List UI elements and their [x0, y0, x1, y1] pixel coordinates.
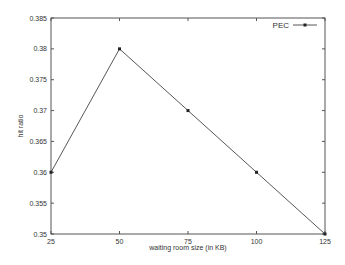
plot-border	[51, 18, 325, 234]
y-tick-label: 0.385	[29, 15, 47, 22]
data-point-marker	[187, 109, 190, 112]
legend: PEC	[273, 21, 317, 30]
y-tick-label: 0.355	[29, 200, 47, 207]
y-tick-label: 0.36	[33, 169, 47, 176]
x-tick-label: 25	[47, 238, 55, 245]
data-point-marker	[118, 47, 121, 50]
x-tick-label: 125	[319, 238, 331, 245]
x-tick-label: 50	[116, 238, 124, 245]
y-axis-ticks: 0.350.3550.360.3650.370.3750.380.385	[29, 15, 325, 238]
legend-label: PEC	[273, 21, 290, 30]
data-point-marker	[324, 233, 327, 236]
legend-marker	[304, 24, 307, 27]
y-tick-label: 0.35	[33, 231, 47, 238]
series-pec	[50, 47, 327, 235]
y-tick-label: 0.38	[33, 45, 47, 52]
y-tick-label: 0.365	[29, 138, 47, 145]
plot-frame	[51, 18, 325, 234]
y-axis-label: hit ratio	[17, 114, 24, 137]
y-tick-label: 0.37	[33, 107, 47, 114]
x-tick-label: 100	[251, 238, 263, 245]
x-axis-ticks: 255075100125	[47, 18, 331, 245]
y-tick-label: 0.375	[29, 76, 47, 83]
data-point-marker	[50, 171, 53, 174]
series-line	[51, 49, 325, 234]
data-point-marker	[255, 171, 258, 174]
line-chart: 0.350.3550.360.3650.370.3750.380.385 255…	[0, 0, 345, 265]
x-axis-label: waiting room size (in KB)	[148, 244, 226, 252]
